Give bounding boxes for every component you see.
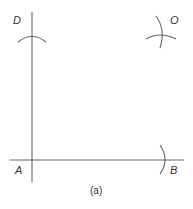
arc-O-horizontal [146, 35, 176, 39]
arc-O-vertical [156, 16, 162, 48]
label-B: B [170, 164, 177, 176]
label-O: O [170, 14, 179, 26]
label-A: A [14, 164, 22, 176]
construction-diagram: D O A B (a) [0, 0, 193, 209]
label-D: D [13, 14, 21, 26]
figure-caption: (a) [90, 185, 102, 196]
